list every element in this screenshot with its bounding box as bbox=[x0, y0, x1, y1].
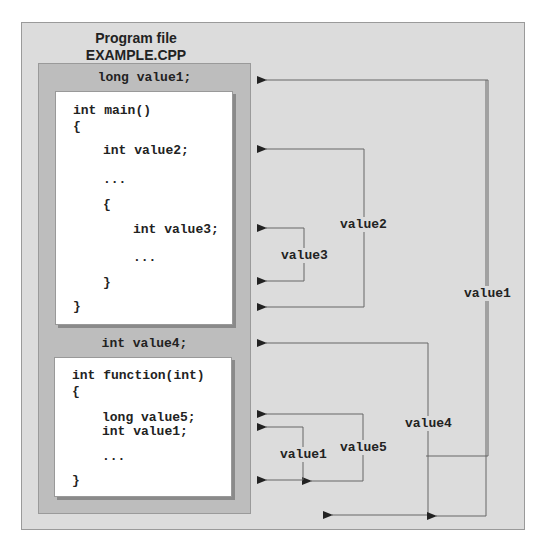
scope-label-value1-global: value1 bbox=[463, 286, 512, 301]
scope-arrows bbox=[0, 0, 543, 552]
scope-label-value5: value5 bbox=[339, 440, 388, 455]
scope-label-value4: value4 bbox=[404, 416, 453, 431]
scope-label-value1-local: value1 bbox=[279, 447, 328, 462]
scope-label-value2: value2 bbox=[339, 217, 388, 232]
scope-label-value3: value3 bbox=[280, 248, 329, 263]
